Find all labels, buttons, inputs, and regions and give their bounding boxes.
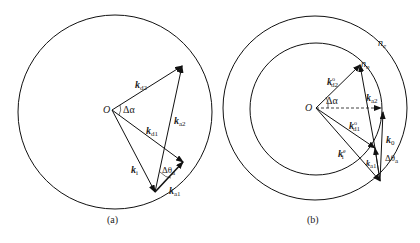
caption-a: (a) bbox=[107, 214, 118, 225]
origin-label-a: O bbox=[103, 105, 110, 115]
figure-a bbox=[18, 15, 212, 209]
ne-label: ne bbox=[378, 38, 386, 50]
k0-label-b: k0 bbox=[386, 135, 395, 147]
delta-alpha-label-b: Δα bbox=[326, 96, 338, 106]
vector-ka2 bbox=[360, 65, 375, 148]
kd2-label-a: kd2 bbox=[135, 80, 147, 92]
origin-label-b: O bbox=[305, 103, 312, 113]
ka2-label-a: ka2 bbox=[174, 116, 186, 128]
delta-theta-label-a: Δθa bbox=[162, 166, 175, 177]
no-label: no bbox=[361, 59, 370, 71]
delta-theta-label-b: Δθa bbox=[385, 154, 398, 165]
ka2-label-b: ka2 bbox=[366, 93, 378, 105]
delta-alpha-arc bbox=[119, 105, 121, 115]
caption-b: (b) bbox=[307, 214, 319, 225]
ka1-label-b: ka1 bbox=[366, 160, 377, 170]
ka1-label-a: ka1 bbox=[169, 186, 181, 198]
vector-ki bbox=[112, 110, 155, 192]
ki-label-a: ki bbox=[131, 165, 138, 177]
kd1-label-a: kd1 bbox=[146, 126, 158, 138]
delta-alpha-label-a: Δα bbox=[123, 105, 135, 115]
kd1-label-b: kod1 bbox=[349, 120, 360, 133]
ki-label-b: kei bbox=[338, 148, 344, 161]
vector-kd2 bbox=[316, 65, 360, 108]
kd2-label-b: kod2 bbox=[327, 76, 338, 89]
